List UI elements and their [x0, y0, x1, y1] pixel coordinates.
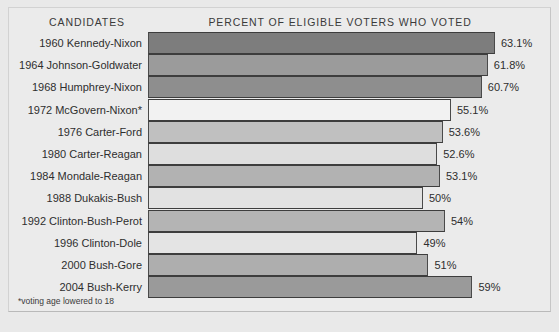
category-label: 1996 Clinton-Dole: [54, 232, 142, 254]
value-label: 55.1%: [457, 99, 488, 121]
bar: [148, 32, 495, 54]
bar: [148, 210, 445, 232]
value-label: 52.6%: [443, 143, 474, 165]
category-label: 2004 Bush-Kerry: [59, 276, 142, 298]
footnote: *voting age lowered to 18: [18, 296, 114, 306]
category-label: 1988 Dukakis-Bush: [47, 187, 142, 209]
bar: [148, 143, 437, 165]
category-label: 1964 Johnson-Goldwater: [19, 54, 142, 76]
category-label: 2000 Bush-Gore: [61, 254, 142, 276]
bar: [148, 121, 443, 143]
category-label: 1992 Clinton-Bush-Perot: [22, 210, 142, 232]
value-label: 53.6%: [449, 121, 480, 143]
value-label: 53.1%: [446, 165, 477, 187]
category-label: 1980 Carter-Reagan: [42, 143, 142, 165]
value-label: 63.1%: [501, 32, 532, 54]
bar: [148, 76, 482, 98]
bar: [148, 54, 488, 76]
category-label: 1976 Carter-Ford: [58, 121, 142, 143]
chart-container: CANDIDATES PERCENT OF ELIGIBLE VOTERS WH…: [0, 0, 559, 332]
value-label: 61.8%: [494, 54, 525, 76]
bar: [148, 99, 451, 121]
value-label: 59%: [478, 276, 500, 298]
category-label: 1968 Humphrey-Nixon: [32, 76, 142, 98]
bar: [148, 254, 428, 276]
category-label: 1984 Mondale-Reagan: [30, 165, 142, 187]
bar-plot-area: 1960 Kennedy-Nixon63.1%1964 Johnson-Gold…: [148, 32, 543, 298]
value-label: 54%: [451, 210, 473, 232]
bar: [148, 232, 417, 254]
value-label: 50%: [429, 187, 451, 209]
category-label: 1960 Kennedy-Nixon: [39, 32, 142, 54]
value-label: 60.7%: [488, 76, 519, 98]
value-label: 51%: [434, 254, 456, 276]
candidates-column-header: CANDIDATES: [24, 16, 150, 28]
bar: [148, 187, 423, 209]
value-label: 49%: [423, 232, 445, 254]
category-label: 1972 McGovern-Nixon*: [28, 99, 142, 121]
chart-title: PERCENT OF ELIGIBLE VOTERS WHO VOTED: [160, 16, 520, 28]
bar: [148, 165, 440, 187]
bar: [148, 276, 472, 298]
